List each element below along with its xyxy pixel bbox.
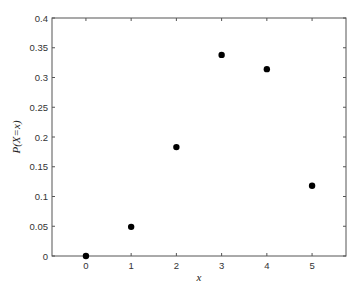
x-tick-label: 1 [129,260,134,271]
x-tick-label: 5 [309,260,314,271]
y-tick-label: 0.05 [30,221,49,232]
x-tick-label: 3 [219,260,224,271]
y-tick-label: 0.4 [35,13,48,24]
y-tick-label: 0.15 [30,161,49,172]
y-axis: 00.050.10.150.20.250.30.350.4 [30,13,347,262]
data-point [83,253,89,259]
data-point [128,224,134,230]
plot-frame [52,18,346,256]
data-point [173,144,179,150]
x-tick-label: 0 [83,260,88,271]
y-tick-label: 0.35 [30,42,49,53]
y-axis-label: P(X=x) [10,120,23,154]
data-point [218,52,224,58]
y-tick-label: 0.3 [35,72,48,83]
y-tick-label: 0 [43,251,48,262]
data-series [83,52,316,260]
y-tick-label: 0.25 [30,102,49,113]
y-tick-label: 0.1 [35,191,48,202]
x-tick-label: 4 [264,260,269,271]
x-axis: 012345 [83,18,314,271]
x-tick-label: 2 [174,260,179,271]
data-point [264,66,270,72]
plot-area [52,18,346,256]
chart: 00.050.10.150.20.250.30.350.4 012345 x P… [0,0,364,293]
x-axis-label: x [196,271,202,283]
y-tick-label: 0.2 [35,132,48,143]
data-point [309,183,315,189]
